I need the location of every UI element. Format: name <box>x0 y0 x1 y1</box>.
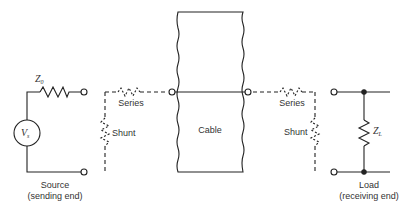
right-shunt-label: Shunt <box>284 127 308 137</box>
load-terminal-top <box>331 89 337 95</box>
left-series-resistor-icon <box>118 88 140 96</box>
cable <box>169 12 251 172</box>
source-caption: Source <box>41 180 70 190</box>
right-shunt-resistor-icon <box>311 118 319 146</box>
left-shunt-resistor-icon <box>101 118 109 146</box>
source-impedance-label: Z0 <box>35 73 44 85</box>
cable-terminal-right <box>245 89 251 95</box>
left-shunt-label: Shunt <box>112 128 136 138</box>
left-series-label: Series <box>118 98 144 108</box>
source-caption-sub: (sending end) <box>27 191 82 201</box>
right-series-label: Series <box>279 98 305 108</box>
load-impedance-label: ZL <box>373 125 383 137</box>
load-caption: Load <box>359 180 379 190</box>
source-impedance-resistor-icon <box>40 87 81 97</box>
source-wire-bottom <box>27 146 81 172</box>
source-terminal-bottom <box>81 169 87 175</box>
transmission-line-diagram: Z0 Vs Source (sending end) Series Shunt … <box>0 0 408 213</box>
load-impedance-resistor-icon <box>359 120 369 146</box>
load-junction-bottom <box>362 170 366 174</box>
right-series-resistor-icon <box>280 88 302 96</box>
load-caption-sub: (receiving end) <box>339 191 399 201</box>
source-wire-top <box>27 92 40 120</box>
source-terminal-top <box>81 89 87 95</box>
load-terminal-bottom <box>331 169 337 175</box>
cable-label: Cable <box>198 125 222 135</box>
load-junction-top <box>362 90 366 94</box>
cable-terminal-left <box>169 89 175 95</box>
